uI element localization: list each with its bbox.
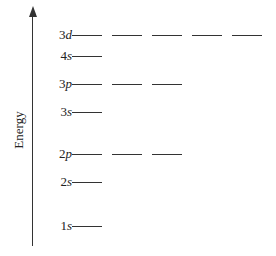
energy-level-3s: 3s [0,112,276,126]
orbital-line [112,84,142,85]
orbital-line [232,35,262,36]
level-label: 4s [12,49,72,63]
orbital-line [192,35,222,36]
level-label: 3d [12,28,72,42]
orbital-line [152,154,182,155]
level-label: 2p [12,147,72,161]
orbital-line [72,112,102,113]
orbital-line [112,154,142,155]
energy-level-3d: 3d [0,35,276,49]
energy-level-1s: 1s [0,226,276,240]
orbital-line [112,35,142,36]
orbital-line [72,182,102,183]
orbital-line [72,35,102,36]
orbital-line [72,154,102,155]
level-label: 2s [12,175,72,189]
level-label: 3p [12,77,72,91]
energy-level-4s: 4s [0,56,276,70]
energy-level-2p: 2p [0,154,276,168]
level-label: 1s [12,219,72,233]
energy-level-2s: 2s [0,182,276,196]
orbital-line [72,226,102,227]
orbital-line [152,35,182,36]
energy-level-3p: 3p [0,84,276,98]
orbital-line [72,56,102,57]
orbital-line [72,84,102,85]
orbital-line [152,84,182,85]
level-label: 3s [12,105,72,119]
